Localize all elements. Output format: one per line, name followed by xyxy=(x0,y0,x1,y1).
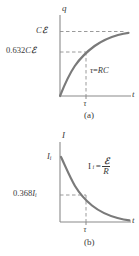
panel-b-0368-prefix: 0.368 xyxy=(13,188,32,198)
panel-b-x-axis-label: t xyxy=(132,216,135,225)
panel-a-x-tick-label-tau: τ xyxy=(84,100,87,108)
panel-a-rc-expression: RC xyxy=(98,65,109,75)
panel-b-ii-equals-emf-over-r-annotation: Ii = ℰ R xyxy=(88,157,110,177)
panel-b-eq-denominator: R xyxy=(102,166,110,176)
panel-a-caption: (a) xyxy=(84,111,94,120)
panel-a-ce-emf-symbol: ℰ xyxy=(42,25,47,35)
panel-a-0632-prefix: 0.632 xyxy=(6,45,25,55)
panel-a-y-axis-label: q xyxy=(62,4,67,13)
panel-b-eq-lhs-symbol: I xyxy=(88,162,91,171)
panel-b-y-tick-label-0368ii: 0.368Ii xyxy=(13,189,37,199)
panel-b-y-tick-label-ii: Ii xyxy=(47,152,51,162)
panel-a-charge-vs-time: q t Cℰ 0.632Cℰ τ τ=RC (a) xyxy=(0,0,139,128)
panel-b-eq-lhs-subscript: i xyxy=(93,164,95,170)
panel-a-x-axis-label: t xyxy=(132,90,135,99)
panel-b-current-vs-time: I t Ii 0.368Ii τ Ii = ℰ R (b) xyxy=(0,128,139,256)
panel-b-0368-subscript: i xyxy=(35,192,37,198)
panel-a-plot xyxy=(0,0,139,128)
panel-a-y-tick-label-ce: Cℰ xyxy=(36,26,47,35)
panel-b-caption: (b) xyxy=(84,238,95,247)
rc-circuit-figure: q t Cℰ 0.632Cℰ τ τ=RC (a) xyxy=(0,0,139,256)
panel-b-eq-fraction: ℰ R xyxy=(102,157,110,177)
panel-a-y-tick-label-0632ce: 0.632Cℰ xyxy=(6,46,36,55)
panel-b-eq-numerator: ℰ xyxy=(102,157,110,166)
panel-b-ii-subscript: i xyxy=(50,155,52,161)
panel-a-tau-equals-rc-annotation: τ=RC xyxy=(90,66,109,75)
panel-b-eq-equals-sign: = xyxy=(96,162,101,171)
panel-b-x-tick-label-tau: τ xyxy=(84,226,87,234)
panel-b-y-axis-label: I xyxy=(62,131,65,140)
panel-a-0632-emf-symbol: ℰ xyxy=(31,45,36,55)
